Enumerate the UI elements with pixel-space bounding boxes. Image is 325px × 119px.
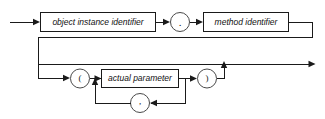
nonterminal-object-instance-identifier-label: object instance identifier xyxy=(52,17,144,27)
arrowhead-exit xyxy=(309,61,316,67)
rail-close-paren-to-main xyxy=(217,68,225,79)
arrowhead-into-dot-terminal xyxy=(163,19,170,25)
arrowhead-into-method-identifier xyxy=(196,19,203,25)
terminal-comma-label: , xyxy=(139,96,141,106)
railroad-diagram-canvas: object instance identifier . method iden… xyxy=(0,0,325,119)
arrowhead-into-comma-terminal xyxy=(150,100,157,106)
arrowhead-into-object-identifier xyxy=(33,19,40,25)
nonterminal-method-identifier-label: method identifier xyxy=(215,17,279,27)
rail-branch-into-parameter-list xyxy=(38,64,63,78)
terminal-close-paren-label: ) xyxy=(206,73,209,83)
terminal-dot-label: . xyxy=(179,16,182,28)
terminal-open-paren-label: ( xyxy=(79,73,82,83)
arrowhead-into-close-paren xyxy=(190,75,197,81)
arrowhead-into-open-paren xyxy=(63,75,70,81)
nonterminal-actual-parameter-label: actual parameter xyxy=(108,73,173,83)
railroad-diagram: object instance identifier . method iden… xyxy=(0,0,325,119)
